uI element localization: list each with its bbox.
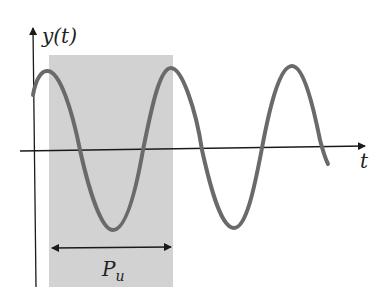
diagram-canvas: y(t) t Pu — [0, 0, 385, 297]
y-axis-label: y(t) — [41, 24, 77, 48]
x-axis-label: t — [360, 149, 369, 173]
sinusoid-diagram: y(t) t Pu — [0, 0, 385, 297]
y-axis — [33, 28, 36, 287]
period-shaded-region — [49, 55, 173, 287]
